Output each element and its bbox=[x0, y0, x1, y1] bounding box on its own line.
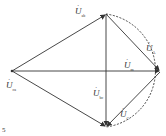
phasor-lines bbox=[0, 0, 166, 136]
label-ubc: ·Ubc bbox=[93, 89, 103, 100]
label-uca: ·Uca bbox=[6, 81, 16, 92]
label-ua: ·UA bbox=[146, 44, 155, 55]
label-uc: ·UC bbox=[120, 110, 129, 121]
label-um: ·Um bbox=[124, 61, 134, 72]
phasor-diagram: ·Uab ·UA ·Um ·Uca ·Ubc ·UC 5 bbox=[0, 0, 166, 136]
label-uab: ·Uab bbox=[75, 7, 85, 18]
footer-mark: 5 bbox=[2, 127, 6, 134]
